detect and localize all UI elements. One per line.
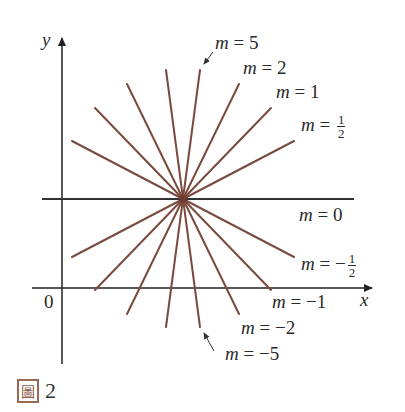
label-mneg2: m = −2 (241, 318, 295, 337)
lines-diagram (0, 0, 405, 412)
intersection-point (179, 195, 187, 203)
label-m5: m = 5 (215, 33, 258, 52)
origin-label: 0 (44, 292, 54, 311)
figure-caption: 圖 2 (17, 378, 56, 404)
y-axis-label: y (42, 30, 50, 49)
pointer-mneg5 (204, 333, 214, 351)
label-mneg5: m = −5 (225, 344, 279, 363)
label-mhalf: m = 12 (301, 113, 345, 140)
figure-number: 2 (45, 378, 56, 404)
label-m1: m = 1 (276, 82, 319, 101)
pointer-m5 (204, 52, 213, 64)
label-m0: m = 0 (299, 205, 342, 224)
label-m2: m = 2 (243, 58, 286, 77)
label-mneghalf: m = −12 (301, 252, 356, 279)
x-axis-label: x (360, 290, 368, 309)
label-mneg1: m = −1 (272, 292, 326, 311)
figure-icon: 圖 (17, 379, 39, 403)
